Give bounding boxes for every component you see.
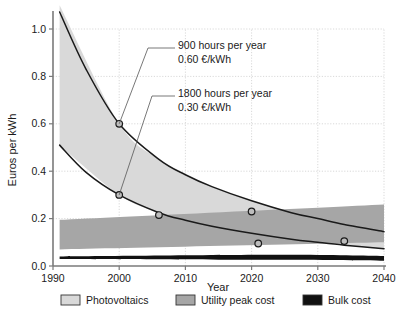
y-tick-label: 0.6 [31,117,46,129]
x-tick-label: 2010 [174,272,198,284]
legend-item[interactable]: Photovoltaics [61,294,148,306]
legend-swatch [176,295,195,305]
y-tick-label: 1.0 [31,23,46,35]
annotation-900-line1: 900 hours per year [178,39,267,51]
x-tick-label: 1990 [41,272,65,284]
x-tick-label: 2030 [306,272,330,284]
x-axis-title: Year [207,281,230,293]
x-tick-label: 2020 [240,272,264,284]
annotation-1800-line1: 1800 hours per year [178,87,272,99]
legend-item[interactable]: Bulk cost [303,294,371,306]
x-tick-label: 2040 [372,272,396,284]
legend-swatch [61,295,80,305]
y-tick-label: 0.4 [31,165,46,177]
y-tick-label: 0.2 [31,212,46,224]
legend-swatch [303,295,322,305]
legend-item[interactable]: Utility peak cost [176,294,275,306]
legend-label: Bulk cost [328,294,371,306]
annotation-1800-line2: 0.30 €/kWh [178,101,231,113]
y-tick-label: 0.0 [31,260,46,272]
legend-label: Photovoltaics [86,294,148,306]
cost-projection-chart: 0.00.20.40.60.81.01990200020102020203020… [0,0,403,327]
y-axis-title: Euros per kWh [6,114,18,187]
legend-label: Utility peak cost [201,294,275,306]
y-tick-label: 0.8 [31,70,46,82]
annotation-900-line2: 0.60 €/kWh [178,53,231,65]
chart-container: 0.00.20.40.60.81.01990200020102020203020… [0,0,403,327]
x-tick-label: 2000 [108,272,132,284]
